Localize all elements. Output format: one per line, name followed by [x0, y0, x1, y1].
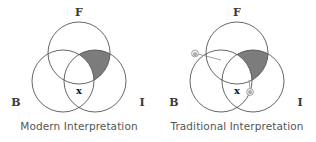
set-label-F-modern: F: [75, 6, 83, 19]
venn-svg-traditional: ⊗ ⊗ F B I x Traditional Interpretation: [158, 0, 316, 142]
set-label-I-traditional: I: [297, 96, 302, 109]
point-marker-x-traditional: x: [234, 85, 241, 96]
set-label-B-traditional: B: [169, 96, 178, 109]
caption-traditional: Traditional Interpretation: [169, 120, 303, 132]
annotation-glyph-upper-left: ⊗: [192, 50, 197, 57]
panel-traditional: ⊗ ⊗ F B I x Traditional Interpretation: [158, 0, 316, 142]
venn-svg-modern: F B I x Modern Interpretation: [0, 0, 158, 142]
set-label-I-modern: I: [139, 96, 144, 109]
point-marker-x-modern: x: [76, 85, 83, 96]
venn-diagram-figure: F B I x Modern Interpretation: [0, 0, 316, 142]
panel-modern: F B I x Modern Interpretation: [0, 0, 158, 142]
set-label-B-modern: B: [11, 96, 20, 109]
set-label-F-traditional: F: [233, 6, 241, 19]
annotation-glyph-lower-right: ⊗: [247, 88, 252, 95]
caption-modern: Modern Interpretation: [20, 120, 137, 132]
